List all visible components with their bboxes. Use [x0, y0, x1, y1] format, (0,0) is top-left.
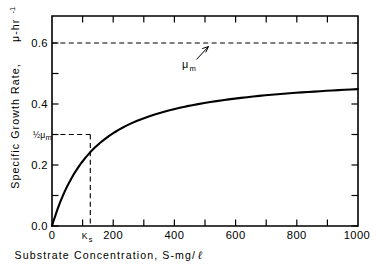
y-axis-title: Specific Growth Rate, μ-hr -1	[8, 7, 22, 189]
y-tick-label-0.0: 0.0	[31, 220, 48, 232]
x-tick-label-200: 200	[103, 229, 123, 241]
half-mu-label-subscript: m	[46, 133, 52, 142]
y-axis-title-main: Specific Growth Rate,	[9, 63, 21, 189]
y-axis-title-unit: μ-hr	[9, 19, 21, 42]
x-tick-labels: 0 200 400 600 800 1000	[49, 229, 371, 241]
x-tick-label-800: 800	[287, 229, 307, 241]
ks-axis-label: K s	[82, 231, 93, 244]
x-tick-label-0: 0	[49, 229, 56, 241]
mu-m-annotation: μ m	[182, 58, 196, 73]
x-tick-label-600: 600	[226, 229, 246, 241]
y-tick-label-0.4: 0.4	[31, 98, 48, 110]
top-axis-ticks	[83, 16, 328, 23]
bottom-axis-ticks	[83, 220, 328, 227]
half-mu-max-label: ½μ m	[33, 130, 52, 142]
mu-m-annotation-main: μ	[182, 58, 188, 70]
mu-m-callout-leader	[197, 47, 209, 60]
ks-label-main: K	[82, 231, 88, 241]
x-tick-label-1000: 1000	[344, 229, 371, 241]
mu-m-annotation-subscript: m	[190, 64, 196, 73]
y-axis-title-exponent: -1	[8, 7, 17, 14]
x-axis-title: Substrate Concentration, S-mg/ ℓ	[15, 249, 204, 261]
right-axis-ticks	[352, 43, 359, 226]
monod-growth-chart-figure: 0 200 400 600 800 1000 0.0 0.2 0.4 0.6 K…	[0, 0, 377, 270]
monod-curve	[52, 89, 358, 226]
x-axis-title-main: Substrate Concentration, S-mg/	[15, 249, 196, 261]
y-tick-label-0.2: 0.2	[31, 159, 48, 171]
ks-label-subscript: s	[89, 235, 93, 244]
half-mu-label-main: ½μ	[33, 130, 45, 140]
y-tick-label-0.6: 0.6	[31, 37, 48, 49]
chart-canvas: 0 200 400 600 800 1000 0.0 0.2 0.4 0.6 K…	[0, 0, 377, 270]
x-tick-label-400: 400	[164, 229, 184, 241]
x-axis-title-unit: ℓ	[198, 249, 204, 261]
